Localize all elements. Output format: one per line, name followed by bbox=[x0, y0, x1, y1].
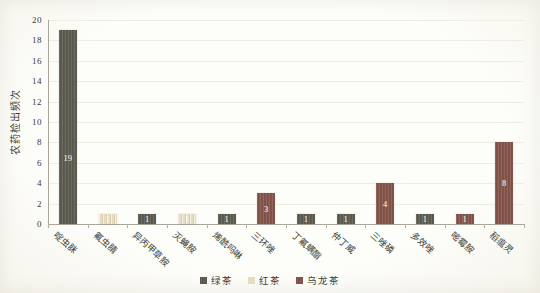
bar-多效唑: 1 bbox=[416, 214, 434, 224]
x-axis-label: 氟虫腈 bbox=[91, 229, 120, 257]
gridline bbox=[48, 142, 524, 143]
y-axis-tick-label: 14 bbox=[8, 75, 42, 87]
legend-item-绿茶: 绿茶 bbox=[200, 273, 233, 287]
legend-swatch-icon bbox=[200, 277, 207, 284]
y-axis-tick-label: 6 bbox=[8, 157, 42, 169]
x-axis-tick bbox=[326, 224, 327, 228]
bar-丁氟螨酯: 1 bbox=[297, 214, 315, 224]
x-axis-label: 三唑磷 bbox=[368, 229, 397, 257]
bar-value-label: 19 bbox=[59, 153, 77, 163]
chart-legend: 绿茶红茶乌龙茶 bbox=[0, 273, 540, 287]
gridline bbox=[48, 20, 524, 21]
bar-value-label: 3 bbox=[257, 204, 275, 214]
y-axis-tick-label: 18 bbox=[8, 34, 42, 46]
x-axis-label: 多效唑 bbox=[408, 229, 437, 257]
bar-value-label: 1 bbox=[99, 214, 117, 224]
legend-label: 乌龙茶 bbox=[307, 273, 340, 287]
x-axis-label: 啶虫脒 bbox=[51, 229, 80, 257]
bar-仲丁威: 1 bbox=[337, 214, 355, 224]
x-axis-tick bbox=[48, 224, 49, 228]
x-axis-tick bbox=[445, 224, 446, 228]
bar-灭蝇胺: 1 bbox=[178, 214, 196, 224]
bar-烯酰吗啉: 1 bbox=[218, 214, 236, 224]
gridline bbox=[48, 61, 524, 62]
bar-value-label: 4 bbox=[376, 199, 394, 209]
legend-item-乌龙茶: 乌龙茶 bbox=[296, 273, 340, 287]
x-axis-tick bbox=[127, 224, 128, 228]
y-axis-tick-label: 10 bbox=[8, 116, 42, 128]
y-axis-tick-label: 12 bbox=[8, 96, 42, 108]
legend-label: 红茶 bbox=[259, 273, 281, 287]
x-axis-tick bbox=[207, 224, 208, 228]
y-axis-tick-label: 4 bbox=[8, 177, 42, 189]
y-axis-tick-label: 0 bbox=[8, 218, 42, 230]
bar-value-label: 1 bbox=[337, 214, 355, 224]
x-axis-label: 烯酰吗啉 bbox=[210, 229, 245, 263]
y-axis-tick-label: 16 bbox=[8, 55, 42, 67]
legend-label: 绿茶 bbox=[211, 273, 233, 287]
x-axis-label: 稻瘟灵 bbox=[487, 229, 516, 257]
x-axis-label: 异丙甲草胺 bbox=[130, 229, 172, 269]
bar-value-label: 1 bbox=[218, 214, 236, 224]
y-axis-tick-label: 20 bbox=[8, 14, 42, 26]
bar-三唑磷: 4 bbox=[376, 183, 394, 224]
legend-item-红茶: 红茶 bbox=[248, 273, 281, 287]
x-axis-label: 丁氟螨酯 bbox=[289, 229, 324, 263]
x-axis-tick bbox=[246, 224, 247, 228]
x-axis-tick bbox=[88, 224, 89, 228]
bar-chart: 农药检出频次 0246810121416182019啶虫脒1氟虫腈1异丙甲草胺1… bbox=[0, 0, 540, 293]
gridline bbox=[48, 102, 524, 103]
bar-value-label: 1 bbox=[138, 214, 156, 224]
gridline bbox=[48, 204, 524, 205]
x-axis-tick bbox=[524, 224, 525, 228]
x-axis-label: 嘧霉胺 bbox=[448, 229, 477, 257]
legend-swatch-icon bbox=[248, 277, 255, 284]
gridline bbox=[48, 81, 524, 82]
bar-三环唑: 3 bbox=[257, 193, 275, 224]
bar-value-label: 8 bbox=[495, 178, 513, 188]
bar-value-label: 1 bbox=[416, 214, 434, 224]
gridline bbox=[48, 163, 524, 164]
bar-value-label: 1 bbox=[297, 214, 315, 224]
x-axis-label: 仲丁威 bbox=[329, 229, 358, 257]
x-axis-tick bbox=[167, 224, 168, 228]
y-axis-tick-label: 2 bbox=[8, 198, 42, 210]
legend-swatch-icon bbox=[296, 277, 303, 284]
gridline bbox=[48, 40, 524, 41]
bar-value-label: 1 bbox=[456, 214, 474, 224]
x-axis-label: 三环唑 bbox=[249, 229, 278, 257]
bar-异丙甲草胺: 1 bbox=[138, 214, 156, 224]
bar-稻瘟灵: 8 bbox=[495, 142, 513, 224]
bar-氟虫腈: 1 bbox=[99, 214, 117, 224]
bar-嘧霉胺: 1 bbox=[456, 214, 474, 224]
x-axis-label: 灭蝇胺 bbox=[170, 229, 199, 257]
x-axis-tick bbox=[286, 224, 287, 228]
x-axis-tick bbox=[405, 224, 406, 228]
bar-value-label: 1 bbox=[178, 214, 196, 224]
scanned-chart-page: 农药检出频次 0246810121416182019啶虫脒1氟虫腈1异丙甲草胺1… bbox=[0, 0, 540, 293]
x-axis-tick bbox=[484, 224, 485, 228]
gridline bbox=[48, 183, 524, 184]
x-axis-tick bbox=[365, 224, 366, 228]
y-axis-tick-label: 8 bbox=[8, 136, 42, 148]
gridline bbox=[48, 122, 524, 123]
y-axis-line bbox=[48, 20, 49, 225]
bar-啶虫脒: 19 bbox=[59, 30, 77, 224]
